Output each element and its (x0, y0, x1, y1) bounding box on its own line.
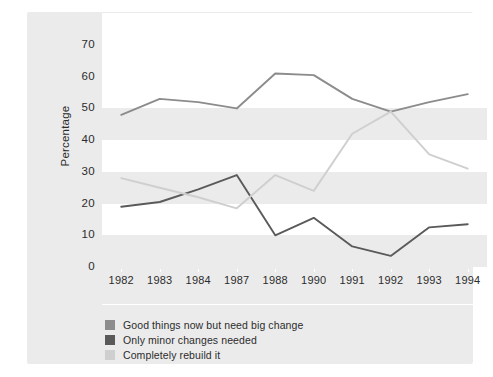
chart-legend: Good things now but need big changeOnly … (105, 318, 445, 363)
x-axis-tick: 1994 (446, 274, 490, 286)
x-axis-tick: 1984 (176, 274, 220, 286)
x-axis-tick: 1983 (138, 274, 182, 286)
legend-swatch-icon (105, 335, 115, 345)
x-axis-tickmark (314, 269, 315, 272)
y-axis-tick: 0 (55, 261, 95, 273)
x-axis-tick: 1988 (253, 274, 297, 286)
y-axis-tick-labels: 010203040506070 (49, 45, 95, 267)
legend-separator (102, 304, 487, 305)
legend-item[interactable]: Only minor changes needed (105, 333, 445, 347)
series-line (121, 74, 468, 115)
y-axis-tick: 10 (55, 229, 95, 241)
legend-item-label: Only minor changes needed (123, 335, 257, 346)
x-axis-tickmark (275, 269, 276, 272)
x-axis-tick: 1982 (99, 274, 143, 286)
series-line (121, 112, 468, 209)
series-line (121, 175, 468, 256)
y-axis-tick: 20 (55, 198, 95, 210)
series-lines (102, 45, 487, 267)
chart-card-panel: Percentage 010203040506070 1982198319841… (27, 12, 473, 364)
x-axis-tickmark (160, 269, 161, 272)
x-axis-tickmark (237, 269, 238, 272)
legend-item[interactable]: Good things now but need big change (105, 318, 445, 332)
x-axis-tick: 1987 (215, 274, 259, 286)
chart-figure: Percentage 010203040506070 1982198319841… (0, 0, 493, 377)
legend-item[interactable]: Completely rebuild it (105, 348, 445, 362)
x-axis-tickmark (468, 269, 469, 272)
legend-swatch-icon (105, 350, 115, 360)
legend-item-label: Good things now but need big change (123, 320, 303, 331)
x-axis-tick: 1991 (330, 274, 374, 286)
x-axis-tickmark (121, 269, 122, 272)
plot-area (102, 45, 487, 267)
legend-swatch-icon (105, 320, 115, 330)
x-axis-tickmark (429, 269, 430, 272)
y-axis-tick: 40 (55, 134, 95, 146)
y-axis-tick: 60 (55, 71, 95, 83)
y-axis-tick: 30 (55, 166, 95, 178)
x-axis-tickmark (352, 269, 353, 272)
y-axis-tick: 50 (55, 102, 95, 114)
x-axis-tick-labels: 1982198319841987198819901991199219931994 (102, 274, 487, 292)
x-axis-tickmark (391, 269, 392, 272)
x-axis-tick: 1992 (369, 274, 413, 286)
x-axis-tick: 1993 (407, 274, 451, 286)
legend-item-label: Completely rebuild it (123, 350, 220, 361)
x-axis-tickmark (198, 269, 199, 272)
y-axis-tick: 70 (55, 39, 95, 51)
x-axis-tick: 1990 (292, 274, 336, 286)
grid-band (102, 13, 487, 45)
